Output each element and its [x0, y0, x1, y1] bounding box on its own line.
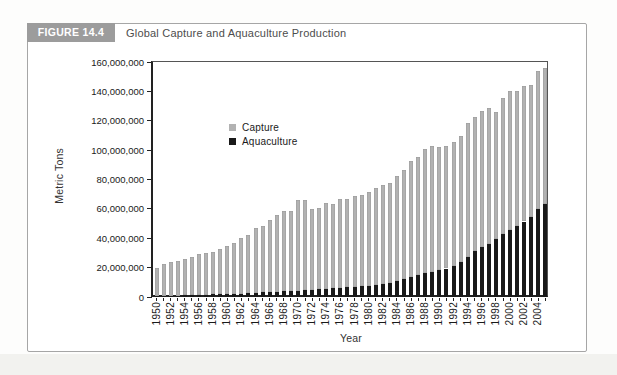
bar-1982-aquaculture [381, 284, 385, 297]
bar-1990-capture [437, 147, 441, 270]
bar-1984-aquaculture [395, 281, 399, 297]
bar-1993-aquaculture [459, 262, 463, 297]
x-tick-mark [404, 298, 405, 301]
bar-1963-aquaculture [246, 293, 250, 297]
bar-1951-capture [162, 264, 166, 296]
bar-1994-capture [466, 123, 470, 257]
bar-1967-aquaculture [275, 292, 279, 297]
x-tick-mark [234, 298, 235, 301]
x-tick-mark [481, 298, 482, 301]
y-tick-mark [147, 150, 152, 151]
bar-1955-capture [190, 257, 194, 295]
bar-1959-capture [218, 249, 222, 294]
bar-1976-capture [338, 199, 342, 288]
bar-1971-aquaculture [303, 290, 307, 297]
bar-1983-capture [388, 183, 392, 282]
bar-1957-aquaculture [204, 295, 208, 297]
bar-1953-aquaculture [176, 296, 180, 297]
bar-1958-aquaculture [211, 294, 215, 297]
bar-1980-capture [367, 192, 371, 286]
x-tick-mark [495, 298, 496, 301]
bar-1964-aquaculture [254, 293, 258, 297]
x-tick-mark [425, 298, 426, 301]
x-tick-label-1986: 1986 [405, 302, 416, 325]
x-tick-mark [503, 298, 504, 301]
x-tick-mark [545, 298, 546, 301]
bar-1984-capture [395, 176, 399, 281]
bar-1978-aquaculture [353, 287, 357, 297]
bar-1992-capture [452, 142, 456, 266]
x-tick-label-1968: 1968 [278, 302, 289, 325]
bar-1995-aquaculture [473, 251, 477, 297]
x-tick-mark [488, 298, 489, 301]
x-tick-mark [524, 298, 525, 301]
bar-1981-capture [374, 188, 378, 285]
bar-1995-capture [473, 117, 477, 251]
x-tick-mark [347, 298, 348, 301]
bar-1956-capture [197, 254, 201, 295]
x-tick-mark [517, 298, 518, 301]
bar-1960-capture [225, 246, 229, 294]
x-tick-mark [241, 298, 242, 301]
x-tick-mark [220, 298, 221, 301]
y-tick-mark [147, 267, 152, 268]
bar-1999-capture [501, 98, 505, 234]
bar-1962-capture [239, 238, 243, 294]
x-tick-label-1974: 1974 [320, 302, 331, 325]
legend-item-capture: Capture [229, 120, 298, 134]
y-tick-label: 120,000,000 [44, 115, 144, 126]
x-tick-label-1972: 1972 [306, 302, 317, 325]
y-tick-label: 60,000,000 [44, 203, 144, 214]
bar-1973-aquaculture [317, 289, 321, 297]
y-tick-mark [147, 91, 152, 92]
x-tick-label-1980: 1980 [363, 302, 374, 325]
x-tick-mark [191, 298, 192, 301]
bar-1965-capture [261, 226, 265, 293]
x-tick-mark [446, 298, 447, 301]
bar-2004-capture [536, 71, 540, 209]
bar-1968-aquaculture [282, 291, 286, 297]
x-tick-mark [439, 298, 440, 301]
bar-1975-aquaculture [331, 288, 335, 297]
x-tick-mark [432, 298, 433, 301]
x-tick-label-1994: 1994 [462, 302, 473, 325]
bar-1998-capture [494, 112, 498, 239]
legend-item-aquaculture: Aquaculture [229, 134, 298, 148]
y-tick-mark [147, 238, 152, 239]
x-tick-label-1996: 1996 [476, 302, 487, 325]
x-tick-mark [382, 298, 383, 301]
x-tick-label-1960: 1960 [221, 302, 232, 325]
bar-1972-capture [310, 209, 314, 290]
bar-2003-capture [529, 85, 533, 216]
x-tick-label-1958: 1958 [207, 302, 218, 325]
x-tick-mark [283, 298, 284, 301]
x-tick-label-1950: 1950 [151, 302, 162, 325]
bar-1950-aquaculture [155, 296, 159, 297]
y-tick-mark [147, 297, 152, 298]
x-tick-mark [396, 298, 397, 301]
bar-1978-capture [353, 196, 357, 286]
x-tick-mark [411, 298, 412, 301]
bar-1977-capture [345, 199, 349, 287]
x-tick-mark [531, 298, 532, 301]
bar-1989-capture [430, 146, 434, 272]
x-tick-mark [184, 298, 185, 301]
bar-1965-aquaculture [261, 292, 265, 297]
bar-1967-capture [275, 215, 279, 292]
x-tick-mark [460, 298, 461, 301]
x-tick-mark [319, 298, 320, 301]
x-tick-label-1966: 1966 [264, 302, 275, 325]
bar-1960-aquaculture [225, 294, 229, 297]
x-tick-mark [206, 298, 207, 301]
x-tick-mark [163, 298, 164, 301]
bar-1969-aquaculture [289, 291, 293, 297]
x-tick-mark [290, 298, 291, 301]
x-tick-mark [326, 298, 327, 301]
x-tick-label-1982: 1982 [377, 302, 388, 325]
bar-1999-aquaculture [501, 234, 505, 297]
bar-1974-aquaculture [324, 289, 328, 297]
x-tick-mark [297, 298, 298, 301]
bar-1996-capture [480, 111, 484, 247]
y-tick-label: 80,000,000 [44, 174, 144, 185]
x-tick-label-1970: 1970 [292, 302, 303, 325]
